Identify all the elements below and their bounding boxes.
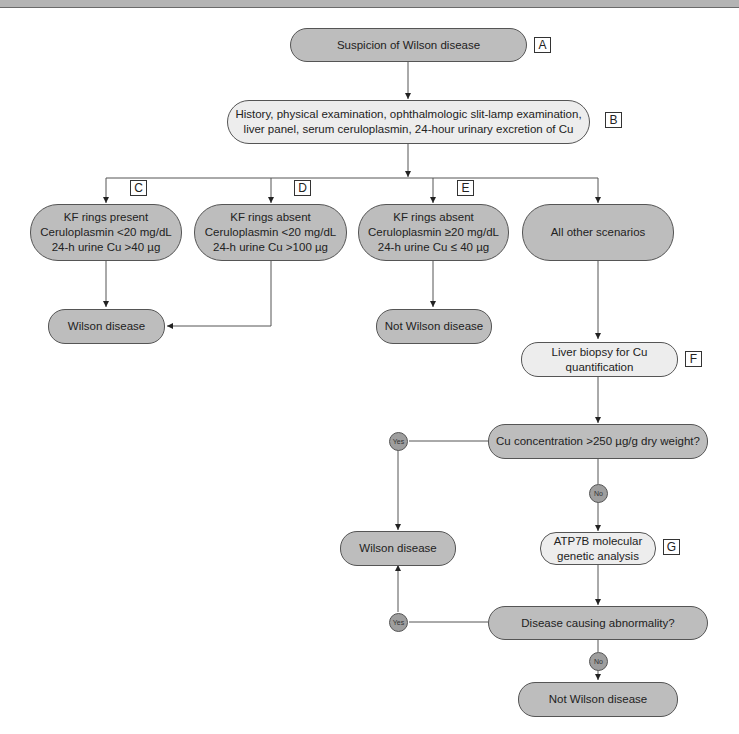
tag-d: D xyxy=(294,180,311,196)
node-atp7b-analysis: ATP7B molecular genetic analysis xyxy=(540,532,656,565)
tag-g: G xyxy=(663,539,680,555)
no-badge-1: No xyxy=(589,484,608,503)
tag-e: E xyxy=(457,180,474,196)
node-cu-concentration-question: Cu concentration >250 µg/g dry weight? xyxy=(488,424,708,459)
yes-badge-2: Yes xyxy=(389,613,408,632)
node-abnormality-question: Disease causing abnormality? xyxy=(488,606,708,640)
tag-c: C xyxy=(130,180,147,196)
tag-b: B xyxy=(605,112,622,128)
node-wilson-disease-1: Wilson disease xyxy=(48,309,165,344)
node-other-scenarios: All other scenarios xyxy=(522,204,674,261)
node-kf-absent-normal-cp: KF rings absent Ceruloplasmin ≥20 mg/dL … xyxy=(358,204,509,261)
node-kf-absent-low-cp: KF rings absent Ceruloplasmin <20 mg/dL … xyxy=(194,204,347,261)
node-liver-biopsy: Liver biopsy for Cu quantification xyxy=(521,342,678,377)
tag-a: A xyxy=(534,37,551,53)
yes-badge-1: Yes xyxy=(389,432,408,451)
node-suspicion: Suspicion of Wilson disease xyxy=(290,28,527,62)
no-badge-2: No xyxy=(589,652,608,671)
node-not-wilson-2: Not Wilson disease xyxy=(518,682,678,717)
node-wilson-disease-2: Wilson disease xyxy=(340,531,456,566)
node-kf-present: KF rings present Ceruloplasmin <20 mg/dL… xyxy=(30,204,182,261)
node-not-wilson-1: Not Wilson disease xyxy=(376,309,492,344)
tag-f: F xyxy=(685,351,702,367)
node-initial-workup: History, physical examination, ophthalmo… xyxy=(227,100,590,144)
